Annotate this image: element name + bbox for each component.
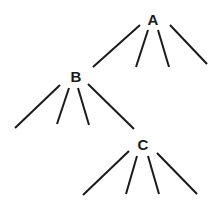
edge-c-9 [126,156,137,194]
edge-c-8 [83,151,129,195]
node-a: A [148,11,159,28]
edge-a-2 [158,30,169,67]
tree-diagram-svg: ABC [0,0,221,207]
edge-a-3 [170,25,207,64]
edge-b-6 [78,88,89,125]
edge-c-11 [157,153,197,194]
tree-diagram: ABC [0,0,221,207]
edge-b-5 [57,88,69,124]
edge-b-4 [15,85,60,128]
edge-b-c [88,84,134,129]
node-c: C [138,136,149,153]
edge-a-1 [136,30,148,67]
edge-a-b [93,25,140,67]
node-b: B [71,68,82,85]
edge-c-10 [148,156,159,194]
